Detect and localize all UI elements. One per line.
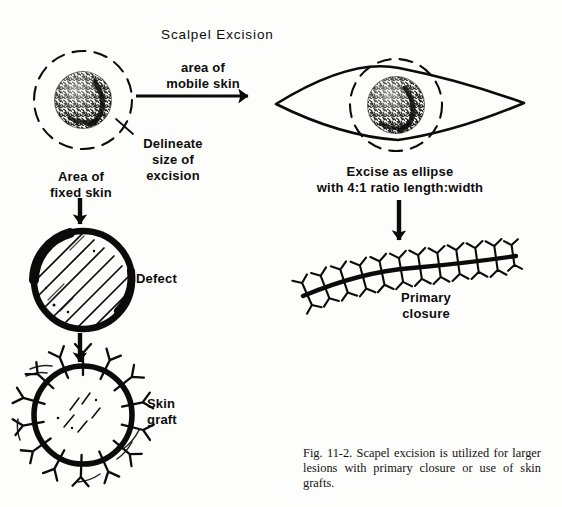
- label-primary-closure: Primary closure: [372, 290, 480, 322]
- defect-outline-thickening: [34, 233, 70, 280]
- panel-ellipse-excision: [276, 59, 524, 151]
- label-area-of-mobile-skin: area of mobile skin: [153, 60, 253, 92]
- label-skin-graft: Skin graft: [147, 396, 177, 428]
- lesion-mass-top-left: [55, 72, 112, 129]
- defect-outline-thickening-2: [118, 271, 131, 311]
- panel-lesion-outline: [34, 51, 132, 149]
- leader-delineate: [116, 119, 133, 134]
- skin-graft-outline: [34, 366, 132, 464]
- figure-caption: Fig. 11-2. Scapel excision is utilized f…: [303, 446, 541, 492]
- label-area-of-fixed-skin: Area of fixed skin: [26, 169, 136, 201]
- label-delineate-size-of-excision: Delineate size of excision: [125, 136, 221, 184]
- figure-title: Scalpel Excision: [161, 27, 274, 43]
- graft-surface-marks: [57, 393, 100, 432]
- label-excise-as-ellipse: Excise as ellipse with 4:1 ratio length:…: [287, 164, 513, 196]
- figure-scalpel-excision: Scalpel Excision area of mobile skin Del…: [0, 0, 562, 507]
- panel-skin-graft: [13, 344, 154, 486]
- figure-artwork: [0, 0, 562, 507]
- panel-defect: [30, 224, 132, 333]
- lesion-mass-in-ellipse: [368, 77, 425, 134]
- label-defect: Defect: [136, 271, 177, 287]
